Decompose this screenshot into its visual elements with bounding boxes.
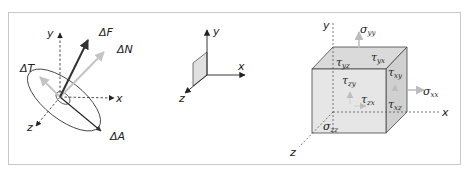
y-label: y bbox=[46, 27, 54, 40]
stress-diagram: y x z ΔF ΔN ΔT ΔA y x z y x z bbox=[0, 0, 468, 172]
x-label: x bbox=[441, 106, 449, 119]
y-label: y bbox=[322, 19, 330, 32]
delta-n-label: ΔN bbox=[116, 43, 133, 56]
y-label: y bbox=[212, 25, 220, 38]
x-label: x bbox=[115, 92, 123, 105]
z-label: z bbox=[178, 92, 185, 105]
z-label: z bbox=[26, 121, 33, 134]
delta-a-label: ΔA bbox=[109, 130, 125, 143]
z-label: z bbox=[289, 146, 296, 159]
x-label: x bbox=[237, 60, 245, 73]
delta-f-label: ΔF bbox=[98, 26, 114, 39]
delta-t-label: ΔT bbox=[19, 62, 36, 75]
